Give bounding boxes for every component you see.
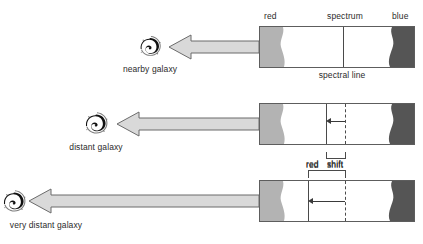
red-band-edge-row3 [276, 181, 292, 221]
galaxy-label-very-distant: very distant galaxy [10, 220, 82, 230]
spectral-line-row1 [343, 27, 344, 67]
blue-band-edge-row3 [382, 181, 400, 221]
spectrum-bar-row1 [259, 26, 415, 68]
blue-band-edge-row2 [382, 104, 400, 144]
recession-arrow-row3 [29, 187, 260, 215]
shift-measure-arrowhead-row2 [326, 118, 331, 124]
galaxy-icon-nearby [135, 32, 165, 62]
shift-bracket-row2 [326, 152, 346, 159]
caption-spectral-line: spectral line [319, 70, 366, 80]
galaxy-label-nearby: nearby galaxy [123, 64, 177, 74]
galaxy-label-distant: distant galaxy [69, 142, 122, 152]
shift-measure-line-row3 [310, 201, 345, 202]
shift-label-red-row3: red [306, 159, 319, 169]
galaxy-icon-very-distant [0, 186, 30, 218]
shift-label-shift-row3: shift [327, 159, 343, 169]
label-spectrum: spectrum [327, 11, 363, 21]
red-shift-diagram: red spectrum blue spectral line [0, 0, 423, 244]
galaxy-icon-distant [80, 108, 112, 140]
spectrum-bar-row2 [259, 103, 415, 145]
recession-arrow-row1 [169, 33, 260, 61]
shift-bracket-row3 [308, 170, 346, 178]
rest-position-dashed-line-row3 [345, 181, 346, 221]
red-band-edge-row2 [276, 104, 292, 144]
label-red: red [264, 11, 277, 21]
blue-band-edge-row1 [382, 27, 400, 67]
recession-arrow-row2 [117, 110, 260, 138]
rest-position-dashed-line-row2 [345, 104, 346, 144]
red-band-edge-row1 [276, 27, 292, 67]
spectral-line-row2 [326, 104, 327, 144]
shift-measure-arrowhead-row3 [308, 198, 313, 204]
label-blue: blue [392, 11, 408, 21]
